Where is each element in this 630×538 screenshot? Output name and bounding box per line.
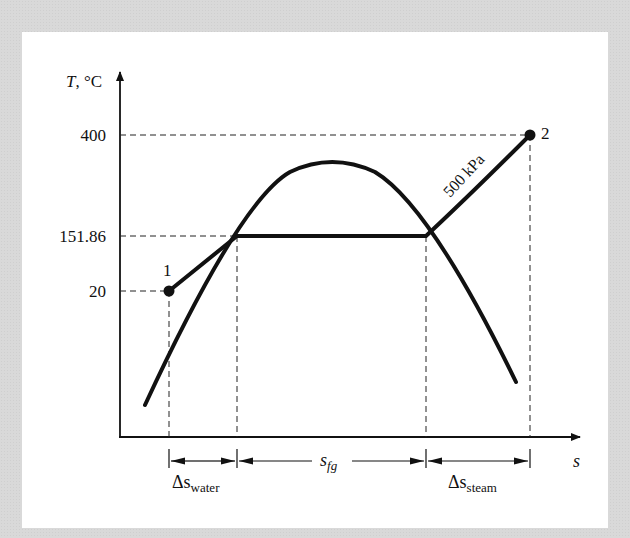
tick-20: 20 [89, 282, 106, 301]
ds-water-label: Δswater [172, 472, 220, 495]
ts-diagram: T, °C 400 151.86 20 1 2 500 kPa s Δswate… [0, 0, 630, 538]
state-point-2 [525, 130, 536, 141]
y-axis-label: T, °C [66, 72, 102, 91]
tick-400: 400 [81, 126, 107, 145]
interval-markers [169, 449, 530, 468]
pressure-label: 500 kPa [440, 150, 488, 200]
x-axis-label: s [573, 451, 580, 471]
state-point-1 [164, 286, 175, 297]
point-2-label: 2 [541, 124, 550, 143]
sfg-label: sfg [320, 450, 338, 473]
ds-steam-label: Δssteam [448, 472, 497, 495]
point-1-label: 1 [163, 261, 172, 280]
tick-151-86: 151.86 [59, 227, 106, 246]
saturation-dome [145, 162, 516, 405]
